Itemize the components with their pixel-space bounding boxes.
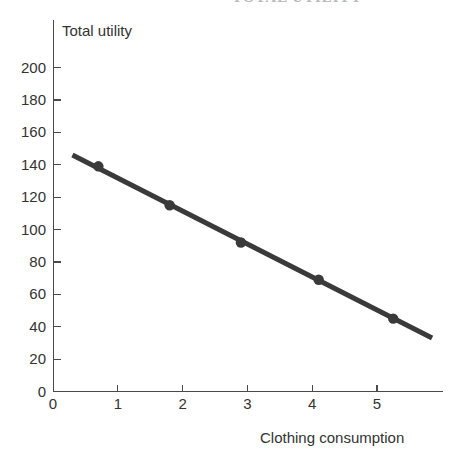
y-tick-mark [54,99,61,100]
y-tick-label: 20 [4,351,46,366]
data-point-marker [236,237,246,247]
data-point-marker [313,275,323,285]
y-tick-mark [54,359,61,360]
x-tick-label: 5 [362,396,392,411]
x-tick-mark [247,385,248,392]
x-tick-label: 4 [297,396,327,411]
data-point-marker [164,200,174,210]
x-tick-mark [182,385,183,392]
y-tick-mark [54,229,61,230]
y-axis-title: Total utility [62,22,132,39]
cut-off-title-text: TOTAL UTILITY [232,0,432,2]
x-axis-title: Clothing consumption [260,429,404,446]
y-tick-label: 180 [4,92,46,107]
x-tick-label: 3 [232,396,262,411]
y-tick-label: 40 [4,319,46,334]
x-tick-label: 2 [168,396,198,411]
cut-off-title: TOTAL UTILITY [232,0,432,9]
y-tick-mark [54,197,61,198]
x-tick-label: 0 [38,396,68,411]
data-point-marker [388,313,398,323]
x-tick-label: 1 [103,396,133,411]
chart-figure: TOTAL UTILITY Total utility Clothing con… [0,0,453,456]
series-line [72,155,432,338]
series-group [72,155,432,338]
y-axis-line [53,20,54,392]
y-tick-label: 100 [4,222,46,237]
y-tick-mark [54,294,61,295]
y-tick-label: 160 [4,124,46,139]
y-tick-mark [54,67,61,68]
y-tick-label: 200 [4,60,46,75]
y-tick-label: 60 [4,286,46,301]
x-tick-mark [312,385,313,392]
y-tick-mark [54,132,61,133]
y-tick-label: 120 [4,189,46,204]
y-tick-mark [54,164,61,165]
plot-area [0,0,453,456]
x-tick-mark [376,385,377,392]
x-tick-mark [117,385,118,392]
y-tick-mark [54,326,61,327]
y-tick-label: 140 [4,157,46,172]
y-tick-mark [54,261,61,262]
data-point-marker [93,161,103,171]
y-tick-label: 80 [4,254,46,269]
